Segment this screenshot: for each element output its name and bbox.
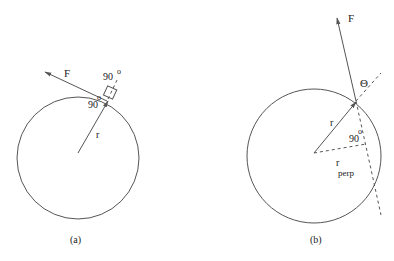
- rperp-sub-b: perp: [338, 168, 354, 178]
- angle-top-sup-a: o: [117, 67, 121, 76]
- force-label-b: F: [348, 12, 354, 24]
- dashed-rperp-line-b: [314, 144, 366, 153]
- diagram-b: F Θ r 90 o r perp (b): [247, 12, 381, 246]
- angle-sup-b: o: [358, 127, 362, 136]
- rperp-label-b: r: [336, 157, 340, 168]
- angle-top-label-a: 90: [103, 71, 113, 82]
- torque-diagram-figure: F 90 o 90 o r (a) F Θ r 90 o r perp (b): [0, 0, 394, 261]
- force-arrow-b: [337, 18, 356, 101]
- caption-b: (b): [310, 234, 322, 246]
- diagram-a: F 90 o 90 o r (a): [17, 67, 139, 246]
- force-label-a: F: [64, 67, 70, 79]
- theta-label-b: Θ: [360, 77, 368, 89]
- circle-b: [247, 89, 381, 223]
- angle-inner-sup-a: o: [97, 93, 101, 102]
- right-angle-marker-a: [103, 86, 116, 99]
- dashed-force-line-b: [356, 101, 381, 215]
- radius-label-a: r: [96, 129, 100, 140]
- radius-label-b: r: [330, 117, 334, 128]
- radius-line-b: [314, 102, 356, 153]
- caption-a: (a): [70, 234, 81, 246]
- circle-a: [17, 97, 139, 219]
